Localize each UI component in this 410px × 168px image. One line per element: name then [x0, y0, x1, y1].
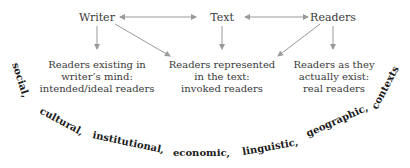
node-writer: Writer — [79, 11, 116, 24]
box-intended-readers: Readers existing in writer’s mind: inten… — [40, 59, 155, 94]
context-social: social, — [9, 61, 32, 99]
node-text: Text — [210, 11, 234, 24]
context-economic: economic, — [173, 147, 230, 159]
context-institutional: institutional, — [91, 129, 165, 156]
svg-text:invoked readers: invoked readers — [181, 83, 263, 94]
svg-text:Readers existing in: Readers existing in — [48, 59, 146, 70]
context-linguistic: linguistic, — [241, 136, 299, 158]
arrow-readers-to-invoked — [278, 24, 320, 56]
box-invoked-readers: Readers represented in the text: invoked… — [169, 59, 276, 94]
diagram-canvas: Writer Text Readers Readers existing in … — [0, 0, 410, 168]
svg-text:Readers represented: Readers represented — [169, 59, 276, 70]
svg-text:in the text:: in the text: — [194, 71, 249, 82]
svg-text:actually exist:: actually exist: — [299, 71, 369, 82]
box-real-readers: Readers as they actually exist: real rea… — [293, 59, 374, 94]
svg-text:real readers: real readers — [303, 83, 365, 94]
arrow-writer-to-invoked — [115, 24, 170, 56]
svg-text:writer’s mind:: writer’s mind: — [61, 71, 133, 82]
context-geographic: geographic, — [304, 102, 370, 140]
svg-text:Readers as they: Readers as they — [293, 59, 374, 70]
context-cultural: cultural, — [38, 105, 86, 138]
node-readers: Readers — [310, 11, 356, 24]
context-contexts: contexts — [369, 64, 401, 111]
svg-text:intended/ideal readers: intended/ideal readers — [40, 83, 155, 94]
